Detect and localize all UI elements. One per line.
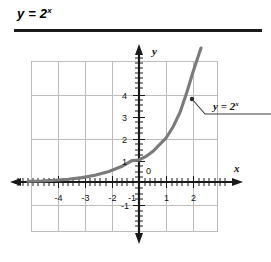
y-axis-top-arrow xyxy=(135,44,143,55)
x-axis-right-arrow xyxy=(232,178,243,186)
x-tick-label: -3 xyxy=(81,193,89,203)
coordinate-graph: -4 -3 -2 -1 1 2 4 3 2 1 -1 0 y x xyxy=(0,38,271,262)
x-tick-label: -4 xyxy=(54,193,62,203)
x-tick-label: -1 xyxy=(128,193,136,203)
graph-plot-area: -4 -3 -2 -1 1 2 4 3 2 1 -1 0 y x xyxy=(0,38,271,262)
y-tick-label: 1 xyxy=(122,157,127,167)
title-divider-rule xyxy=(14,29,262,32)
y-tick-label: 4 xyxy=(122,91,127,101)
figure-title-base: y = 2 xyxy=(17,6,47,21)
y-axis-bottom-arrow xyxy=(135,233,143,244)
y-tick-label: 3 xyxy=(122,113,127,123)
x-tick-label: 2 xyxy=(191,193,196,203)
figure-root: y = 2x xyxy=(0,0,271,262)
x-tick-label: 1 xyxy=(164,193,169,203)
curve-annotation-label: y = 2x xyxy=(211,100,239,112)
y-axis-label: y xyxy=(150,45,157,57)
y-tick-label: -1 xyxy=(121,201,129,211)
figure-title-exponent: x xyxy=(47,6,52,15)
origin-label: 0 xyxy=(146,166,151,176)
x-tick-label: -2 xyxy=(108,193,116,203)
figure-title: y = 2x xyxy=(17,6,52,21)
exponential-curve xyxy=(28,48,201,181)
curve-annotation-exponent: x xyxy=(234,100,239,108)
x-axis-label: x xyxy=(233,162,240,174)
y-tick-label: 2 xyxy=(122,135,127,145)
x-axis-left-arrow xyxy=(10,178,21,186)
curve-annotation-base: y = 2 xyxy=(211,100,236,112)
